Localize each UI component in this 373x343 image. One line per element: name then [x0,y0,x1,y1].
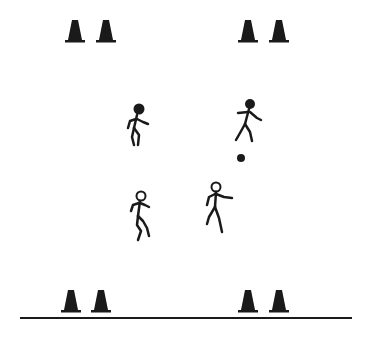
cone-icon [269,20,289,43]
cone-icon [269,290,289,313]
diagram-canvas [0,0,373,343]
drill-diagram: Soccer drill: four players between two r… [0,0,373,343]
cone-icon [65,20,85,43]
ball-icon [237,154,245,162]
cone-icon [61,290,81,313]
player-figure-icon [131,192,149,241]
cone-icon [91,290,111,313]
player-figure-icon [236,99,261,141]
player-figure-icon [128,104,148,146]
player-figure-icon [207,183,232,233]
cone-icon [238,290,258,313]
cone-icon [96,20,116,43]
cone-icon [238,20,258,43]
